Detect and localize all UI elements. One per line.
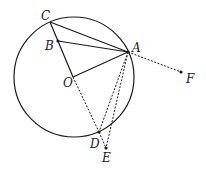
label-c: C (41, 9, 50, 23)
segment-af (128, 52, 181, 72)
point-f (179, 70, 182, 73)
segment-ca (50, 22, 128, 52)
label-f: F (185, 72, 195, 86)
label-a: A (131, 41, 141, 55)
point-b (56, 39, 59, 42)
point-d (97, 130, 100, 133)
label-e: E (101, 151, 111, 165)
segment-ad (99, 52, 128, 132)
circle-diagram: C B O A D E F (0, 0, 206, 174)
segment-de (99, 132, 106, 148)
segment-od (73, 77, 99, 132)
label-o: O (63, 76, 73, 90)
label-b: B (44, 39, 54, 53)
segment-ae (106, 52, 128, 148)
geometry-figure: C B O A D E F (0, 0, 206, 174)
point-a (126, 50, 129, 53)
segment-oa (73, 52, 128, 77)
segment-ba (58, 41, 128, 52)
point-e (104, 146, 107, 149)
label-d: D (89, 137, 100, 151)
